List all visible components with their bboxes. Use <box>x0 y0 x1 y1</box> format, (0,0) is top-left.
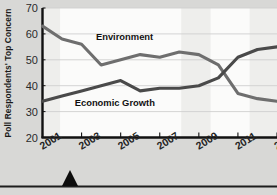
y-tick-label-60: 60 <box>26 28 38 40</box>
plot-background <box>42 8 277 138</box>
chart-container: 203040506070 EnvironmentEconomic Growth … <box>0 0 277 195</box>
series-annotation-economic-growth: Economic Growth <box>75 97 155 108</box>
y-tick-label-70: 70 <box>26 2 38 14</box>
y-tick-label-40: 40 <box>26 80 38 92</box>
y-axis-title: Poll Respondents' Top Concern <box>3 9 13 138</box>
shaded-band-2 <box>250 8 277 138</box>
line-chart: 203040506070 EnvironmentEconomic Growth … <box>0 0 277 195</box>
y-tick-label-30: 30 <box>26 106 38 118</box>
y-tick-label-50: 50 <box>26 54 38 66</box>
shaded-band-1 <box>181 8 210 138</box>
series-annotation-environment: Environment <box>96 31 153 42</box>
